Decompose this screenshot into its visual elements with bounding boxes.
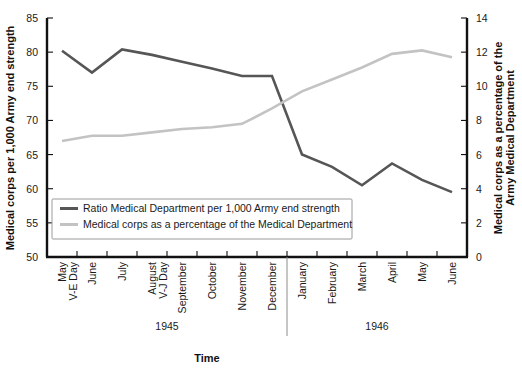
svg-text:Army Medical Department: Army Medical Department	[504, 70, 516, 206]
left-axis-tick-label: 50	[26, 251, 38, 263]
x-axis-category-label: MayV-E Day	[56, 261, 79, 300]
right-axis-tick-label: 6	[476, 149, 482, 161]
x-axis-title: Time	[194, 352, 219, 364]
left-axis-tick-label: 75	[26, 80, 38, 92]
x-axis-category-label: September	[176, 262, 188, 314]
left-axis-tick-label: 60	[26, 183, 38, 195]
svg-text:V-J Day: V-J Day	[157, 261, 169, 299]
year-label-1945: 1945	[155, 320, 179, 332]
line-chart: 505560657075808502468101214MayV-E DayJun…	[0, 0, 522, 376]
x-axis-category-label: June	[446, 262, 458, 285]
series-line-2	[62, 50, 452, 140]
legend-label-2: Medical corps as a percentage of the Med…	[83, 218, 352, 230]
x-axis-category-label: November	[236, 261, 248, 310]
left-axis-tick-label: 80	[26, 46, 38, 58]
series-line-1	[62, 49, 452, 192]
right-axis-tick-label: 4	[476, 183, 482, 195]
right-axis-tick-label: 12	[476, 46, 488, 58]
svg-text:Medical corps as a percentage: Medical corps as a percentage of the	[492, 42, 504, 235]
svg-text:June: June	[446, 262, 458, 285]
svg-text:V-E Day: V-E Day	[67, 261, 79, 300]
right-axis-tick-label: 14	[476, 12, 488, 24]
svg-text:April: April	[386, 262, 398, 283]
svg-text:September: September	[176, 262, 188, 314]
year-label-1946: 1946	[365, 320, 389, 332]
x-axis-category-label: July	[116, 261, 128, 280]
x-axis-category-label: February	[326, 261, 338, 304]
right-axis-tick-label: 2	[476, 217, 482, 229]
svg-text:January: January	[296, 261, 308, 299]
svg-text:March: March	[356, 262, 368, 291]
svg-text:December: December	[266, 261, 278, 310]
right-axis-title: Medical corps as a percentage of theArmy…	[492, 42, 516, 235]
x-axis-category-label: June	[86, 262, 98, 285]
x-axis-category-label: October	[206, 262, 218, 300]
x-axis-category-label: April	[386, 262, 398, 283]
right-axis-tick-label: 10	[476, 80, 488, 92]
svg-text:November: November	[236, 261, 248, 310]
svg-text:May: May	[416, 261, 428, 282]
left-axis-tick-label: 70	[26, 114, 38, 126]
svg-text:June: June	[86, 262, 98, 285]
svg-text:February: February	[326, 261, 338, 304]
left-axis-tick-label: 65	[26, 149, 38, 161]
left-axis-tick-label: 85	[26, 12, 38, 24]
x-axis-category-label: AugustV-J Day	[146, 261, 169, 299]
left-axis-title: Medical corps per 1,000 Army end strengt…	[4, 25, 16, 250]
right-axis-tick-label: 0	[476, 251, 482, 263]
left-axis-tick-label: 55	[26, 217, 38, 229]
svg-text:July: July	[116, 261, 128, 280]
legend-label-1: Ratio Medical Department per 1,000 Army …	[83, 202, 340, 214]
x-axis-category-label: January	[296, 261, 308, 299]
svg-text:October: October	[206, 262, 218, 300]
chart-container: 505560657075808502468101214MayV-E DayJun…	[0, 0, 522, 376]
x-axis-category-label: March	[356, 262, 368, 291]
right-axis-tick-label: 8	[476, 114, 482, 126]
x-axis-category-label: December	[266, 261, 278, 310]
x-axis-category-label: May	[416, 261, 428, 282]
